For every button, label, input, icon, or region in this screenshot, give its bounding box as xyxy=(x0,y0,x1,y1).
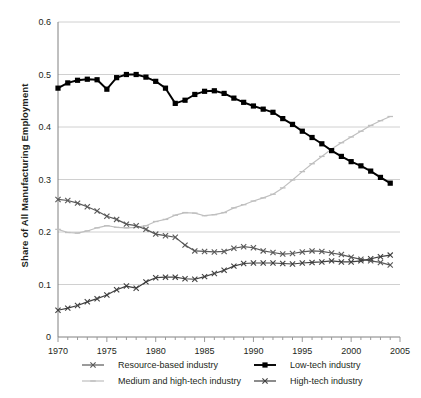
legend-item: Medium and high-tech industry xyxy=(82,376,242,386)
chart-svg: 00.10.20.30.40.50.6197019751980198519901… xyxy=(0,0,421,398)
legend-item: Low-tech industry xyxy=(254,360,361,370)
y-tick-label: 0.4 xyxy=(38,122,51,132)
legend-item: Resource-based industry xyxy=(82,360,219,370)
x-tick-label: 1980 xyxy=(146,346,166,356)
legend-label: Medium and high-tech industry xyxy=(118,376,242,386)
plot-area: 00.10.20.30.40.50.6197019751980198519901… xyxy=(0,0,421,398)
legend-label: High-tech industry xyxy=(290,376,363,386)
x-tick-label: 1990 xyxy=(243,346,263,356)
series-low-tech-industry xyxy=(55,72,392,186)
x-tick-label: 1975 xyxy=(97,346,117,356)
x-tick-label: 2005 xyxy=(390,346,410,356)
legend-item: High-tech industry xyxy=(254,376,363,386)
legend-label: Low-tech industry xyxy=(290,360,361,370)
y-tick-label: 0.1 xyxy=(38,280,51,290)
x-tick-label: 1995 xyxy=(292,346,312,356)
chart-container: Share of All Manufacturing Employment 00… xyxy=(0,0,421,398)
y-tick-label: 0.5 xyxy=(38,70,51,80)
y-tick-label: 0.2 xyxy=(38,227,51,237)
x-tick-label: 1970 xyxy=(48,346,68,356)
y-tick-label: 0.6 xyxy=(38,17,51,27)
series-high-tech-industry xyxy=(55,253,392,313)
y-tick-label: 0 xyxy=(46,332,51,342)
legend-label: Resource-based industry xyxy=(118,360,219,370)
x-tick-label: 1985 xyxy=(195,346,215,356)
y-tick-label: 0.3 xyxy=(38,175,51,185)
x-tick-label: 2000 xyxy=(341,346,361,356)
